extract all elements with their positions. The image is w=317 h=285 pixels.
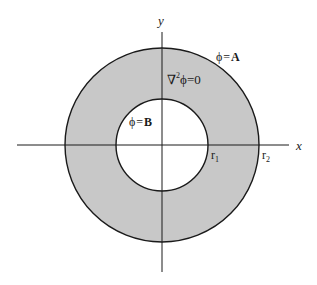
laplace-rest: ϕ=0 <box>180 72 201 87</box>
r2-subscript: 2 <box>266 155 270 164</box>
phi-symbol: ϕ <box>129 115 135 129</box>
nabla-symbol: ∇ <box>167 72 176 87</box>
value-a: A <box>231 50 240 64</box>
annulus-diagram: x y ϕ=A ∇2ϕ=0 ϕ=B r1 r2 <box>0 0 317 285</box>
value-b: B <box>144 115 152 129</box>
equals-sign: = <box>136 115 143 129</box>
y-axis-label: y <box>156 13 164 28</box>
r2-label: r2 <box>262 148 270 164</box>
outer-boundary-label: ϕ=A <box>216 50 240 64</box>
r1-subscript: 1 <box>215 155 219 164</box>
x-axis-label: x <box>295 138 302 153</box>
phi-symbol: ϕ <box>216 50 222 64</box>
equals-sign: = <box>223 50 230 64</box>
laplace-equation: ∇2ϕ=0 <box>167 71 201 87</box>
inner-boundary-label: ϕ=B <box>129 115 152 129</box>
